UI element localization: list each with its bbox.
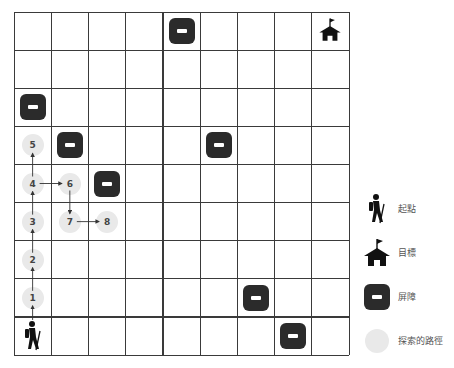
hiker-icon bbox=[360, 192, 394, 226]
legend-goal: 目標 bbox=[360, 236, 454, 272]
explored-node-icon bbox=[360, 324, 394, 358]
house-flag-icon bbox=[360, 236, 394, 270]
legend-explored-label: 探索的路徑 bbox=[398, 334, 443, 347]
pathfinding-diagram: 12345678 起點 目標 屏障 bbox=[0, 0, 454, 368]
barrier-icon bbox=[360, 280, 394, 314]
legend-barrier-label: 屏障 bbox=[398, 290, 416, 303]
legend-start-label: 起點 bbox=[398, 202, 416, 215]
legend-goal-label: 目標 bbox=[398, 246, 416, 259]
legend-start: 起點 bbox=[360, 192, 454, 228]
legend-explored: 探索的路徑 bbox=[360, 324, 454, 360]
legend-barrier: 屏障 bbox=[360, 280, 454, 316]
